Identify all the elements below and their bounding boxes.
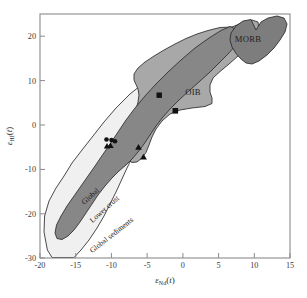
y-axis: 20 10 0 -10 -20 -30 xyxy=(25,32,45,262)
field-global-lower-crust-shape xyxy=(55,27,240,240)
y-tick-label: 10 xyxy=(28,77,36,86)
field-label-oib: OIB xyxy=(185,87,201,97)
marker-circle xyxy=(113,139,118,144)
x-tick-label: 5 xyxy=(217,261,221,270)
x-tick-label: -5 xyxy=(144,261,151,270)
y-tick-label: 20 xyxy=(28,32,36,41)
y-tick-label: -30 xyxy=(25,254,36,263)
marker-square xyxy=(157,93,162,98)
plot-data-area xyxy=(44,16,287,258)
x-tick-label: -10 xyxy=(106,261,117,270)
x-tick-label: 0 xyxy=(181,261,185,270)
field-label-morb: MORB xyxy=(235,34,262,44)
x-tick-label: 10 xyxy=(250,261,258,270)
y-tick-label: -10 xyxy=(25,165,36,174)
x-axis-title: εNd(t) xyxy=(155,275,174,286)
y-tick-label: -20 xyxy=(25,210,36,219)
x-axis-title-subscript: Nd xyxy=(159,280,166,286)
marker-circle xyxy=(104,137,109,142)
marker-square xyxy=(173,108,179,114)
x-tick-label: -15 xyxy=(70,261,81,270)
figure-container: MORB OIB Global Lower crust Global sedim… xyxy=(0,0,307,298)
epsilon-nd-hf-scatter-plot: MORB OIB Global Lower crust Global sedim… xyxy=(0,0,307,298)
y-tick-label: 0 xyxy=(32,121,36,130)
x-tick-label: 15 xyxy=(286,261,294,270)
y-axis-title: εHf(t) xyxy=(4,127,15,145)
x-tick-label: -20 xyxy=(35,261,46,270)
